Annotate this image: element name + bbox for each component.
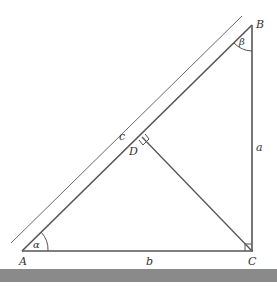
triangle-diagram: A B C D a b c α β xyxy=(0,0,277,286)
side-c-dimension-line xyxy=(11,16,242,243)
side-label-b: b xyxy=(146,255,153,268)
vertex-label-d: D xyxy=(128,145,138,158)
vertex-label-b: B xyxy=(255,18,264,31)
side-label-a: a xyxy=(256,141,263,154)
angle-label-alpha: α xyxy=(33,239,40,250)
angle-arc-alpha xyxy=(41,232,48,251)
side-c-hypotenuse xyxy=(22,25,252,251)
altitude-cd xyxy=(142,137,252,251)
angle-label-beta: β xyxy=(238,36,245,47)
side-label-c: c xyxy=(119,130,125,143)
vertex-label-a: A xyxy=(18,255,27,268)
footer-bar xyxy=(0,269,277,282)
vertex-label-c: C xyxy=(248,255,257,268)
